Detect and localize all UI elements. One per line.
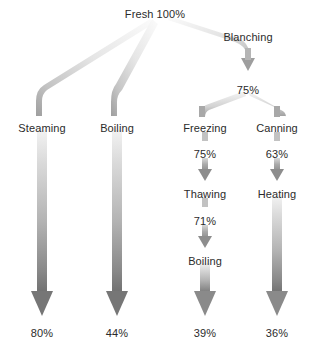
value-blanching-yield: 75%	[237, 84, 259, 96]
node-canning: Canning	[256, 122, 298, 134]
arrow-heating-shaft	[266, 196, 288, 316]
node-steaming: Steaming	[18, 122, 65, 134]
value-boiling-right-final: 39%	[194, 327, 216, 339]
arrow-freezing-to-thawing	[198, 158, 212, 181]
arrow-thawing-to-boiling-right	[198, 225, 212, 248]
node-blanching: Blanching	[223, 31, 272, 43]
node-thawing: Thawing	[184, 188, 226, 200]
arrow-boiling-left-shaft	[106, 130, 128, 316]
value-steaming-final: 80%	[31, 327, 53, 339]
value-freezing-yield: 75%	[194, 148, 216, 160]
node-fresh: Fresh 100%	[125, 8, 185, 20]
arrow-boiling-right-shaft	[194, 263, 216, 316]
diagram-canvas: Fresh 100% Blanching Steaming Boiling Fr…	[0, 0, 317, 349]
node-boiling-right: Boiling	[188, 255, 222, 267]
arrow-canning-to-heating	[270, 158, 284, 181]
arrow-steaming-shaft	[31, 130, 53, 316]
arrow-fresh-to-blanching	[168, 16, 255, 71]
value-boiling-left-final: 44%	[106, 327, 128, 339]
node-heating: Heating	[258, 188, 297, 200]
node-freezing: Freezing	[183, 122, 227, 134]
arrow-fresh-to-steaming	[36, 19, 153, 116]
value-heating-final: 36%	[266, 327, 288, 339]
flow-arrows	[0, 0, 317, 349]
value-canning-yield: 63%	[266, 148, 288, 160]
node-boiling-left: Boiling	[100, 122, 134, 134]
value-thawing-yield: 71%	[194, 215, 216, 227]
